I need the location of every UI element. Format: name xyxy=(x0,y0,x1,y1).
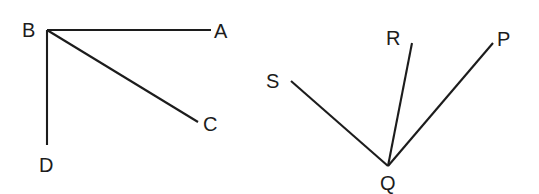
point-label-D: D xyxy=(39,154,53,176)
ray-QP xyxy=(388,43,493,166)
right-diagram: Q S R P xyxy=(266,27,510,194)
point-label-Q: Q xyxy=(380,172,396,194)
point-label-R: R xyxy=(386,27,400,49)
left-diagram: B A C D xyxy=(22,19,228,176)
point-label-A: A xyxy=(214,20,228,42)
geometry-diagram-canvas: B A C D Q S R P xyxy=(0,0,539,194)
point-label-S: S xyxy=(266,70,279,92)
point-label-B: B xyxy=(22,19,35,41)
point-label-P: P xyxy=(497,28,510,50)
ray-BC xyxy=(47,30,198,122)
geometry-figure-page: B A C D Q S R P xyxy=(0,0,539,194)
ray-QS xyxy=(291,81,388,166)
ray-QR xyxy=(388,43,412,166)
point-label-C: C xyxy=(203,113,217,135)
